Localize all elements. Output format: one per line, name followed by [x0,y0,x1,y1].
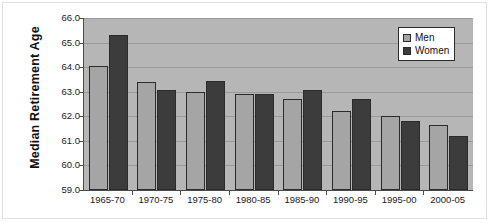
x-tick-label: 2000-05 [423,194,472,205]
y-tick-label: 65.0 [46,37,80,48]
x-tick-mark [229,191,230,195]
x-tick-label: 1970-75 [132,194,181,205]
x-axis-tick-labels: 1965-701970-751975-801980-851985-901990-… [83,194,473,210]
y-tick-label: 62.0 [46,110,80,121]
bar-women-1990-95 [352,99,371,190]
y-tick-mark [79,92,83,93]
x-tick-label: 1985-90 [278,194,327,205]
x-tick-label: 1965-70 [83,194,132,205]
y-tick-label: 66.0 [46,12,80,23]
bar-men-2000-05 [429,125,448,190]
x-tick-mark [132,191,133,195]
x-tick-mark [375,191,376,195]
legend-swatch-men-icon [403,34,411,42]
x-tick-label: 1995-00 [375,194,424,205]
y-tick-mark [79,190,83,191]
y-tick-label: 64.0 [46,61,80,72]
bar-men-1965-70 [89,66,108,190]
bar-women-1985-90 [303,90,322,190]
y-tick-label: 59.0 [46,184,80,195]
x-tick-label: 1990-95 [326,194,375,205]
bar-women-1975-80 [206,81,225,190]
bar-women-2000-05 [449,136,468,190]
y-tick-mark [79,67,83,68]
legend-entry-women: Women [403,44,449,57]
y-tick-label: 60.0 [46,159,80,170]
y-tick-mark [79,141,83,142]
legend-swatch-women-icon [403,47,411,55]
chart-legend: MenWomen [398,27,455,61]
bar-men-1975-80 [186,92,205,190]
y-tick-mark [79,165,83,166]
bar-men-1985-90 [283,99,302,190]
bar-chart-figure: Median Retirement Age 66.065.064.063.062… [0,0,490,223]
y-tick-label: 61.0 [46,135,80,146]
bar-women-1995-00 [401,121,420,190]
bar-women-1965-70 [109,35,128,190]
y-tick-mark [79,116,83,117]
bar-women-1980-85 [255,94,274,190]
x-tick-label: 1980-85 [229,194,278,205]
legend-label: Women [415,45,449,56]
bar-men-1980-85 [235,94,254,190]
y-axis-tick-labels: 66.065.064.063.062.061.060.059.0 [46,0,80,223]
bar-women-1970-75 [157,90,176,190]
bar-men-1970-75 [137,82,156,190]
y-tick-mark [79,43,83,44]
y-tick-label: 63.0 [46,86,80,97]
x-tick-mark [423,191,424,195]
bar-men-1990-95 [332,111,351,190]
x-tick-label: 1975-80 [180,194,229,205]
x-tick-mark [180,191,181,195]
legend-label: Men [415,32,434,43]
x-tick-mark [278,191,279,195]
x-tick-mark [326,191,327,195]
bar-men-1995-00 [381,116,400,190]
legend-entry-men: Men [403,31,449,44]
y-tick-mark [79,18,83,19]
